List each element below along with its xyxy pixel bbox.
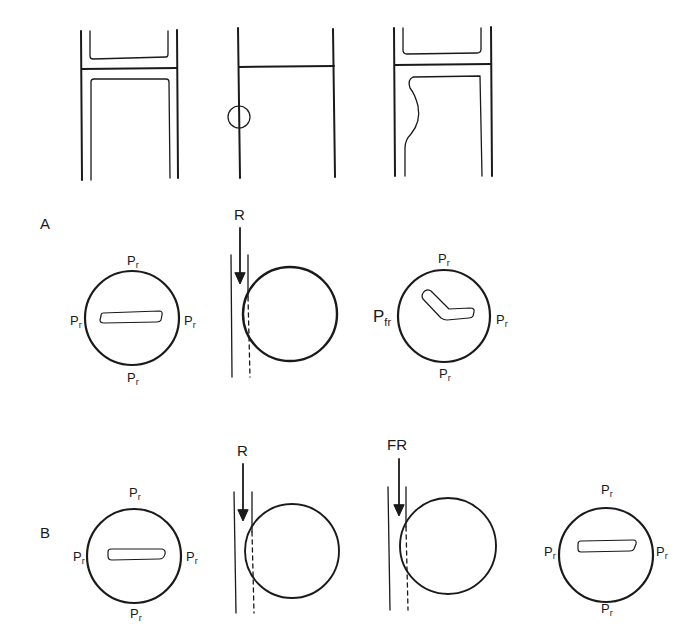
svg-text:Pr: Pr [127,370,139,387]
force-label-r-a: R [234,206,245,223]
svg-text:Pr: Pr [656,544,668,561]
row-a-cell-normal [85,271,179,365]
row-b-cell-at-wall-fr [388,459,496,610]
row-b-cell-normal-2 [559,508,653,602]
svg-text:Pr: Pr [601,482,613,499]
row-label-b: B [40,524,50,541]
row-a-cell-deformed [398,270,490,362]
row-b-cell-at-wall-r [234,464,339,613]
svg-text:Pr: Pr [127,253,139,270]
svg-text:Pr: Pr [130,606,142,623]
row-a-cell-at-wall [231,228,337,377]
force-label-fr-b: FR [387,436,407,453]
svg-text:Pr: Pr [438,251,450,268]
row-b-cell-normal-1 [87,509,181,603]
svg-text:Pr: Pr [601,601,613,618]
top-panel-circled-defect [228,28,335,178]
pressure-labels-b4: Pr Pr Pr Pr [544,482,668,618]
labels: A B R R FR Pr Pr Pr Pr Pr Pfr Pr Pr Pr P… [40,206,668,623]
svg-text:Pr: Pr [439,366,451,383]
pressure-labels-a1: Pr Pr Pr Pr [70,253,196,387]
svg-text:Pr: Pr [73,549,85,566]
svg-text:Pr: Pr [70,313,82,330]
svg-text:Pr: Pr [544,544,556,561]
top-panel-deformed-walls [394,27,492,176]
force-label-r-b: R [237,442,248,459]
row-label-a: A [40,215,50,232]
svg-text:Pfr: Pfr [373,307,391,328]
svg-text:Pr: Pr [184,313,196,330]
top-panel-intact-walls [81,30,178,180]
diagram-canvas: A B R R FR Pr Pr Pr Pr Pr Pfr Pr Pr Pr P… [0,0,699,642]
svg-text:Pr: Pr [129,485,141,502]
svg-text:Pr: Pr [496,312,508,329]
svg-text:Pr: Pr [186,549,198,566]
